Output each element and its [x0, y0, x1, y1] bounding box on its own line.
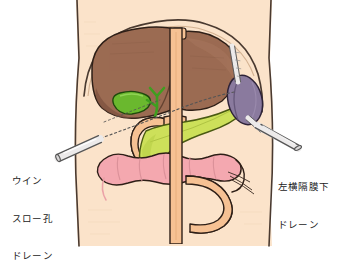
winslow-label-line-2: スロー孔	[12, 213, 53, 226]
winslow-foramen-drain-label: ウイン スロー孔 ドレーン	[12, 150, 53, 264]
subphrenic-label-line-1: 左横隔膜下	[278, 181, 329, 194]
winslow-label-line-3: ドレーン	[12, 250, 53, 263]
subphrenic-label-line-2: ドレーン	[278, 219, 329, 232]
winslow-label-line-1: ウイン	[12, 175, 53, 188]
aorta-midline-vessel	[170, 28, 182, 244]
left-subphrenic-drain-label: 左横隔膜下 ドレーン	[278, 156, 329, 256]
